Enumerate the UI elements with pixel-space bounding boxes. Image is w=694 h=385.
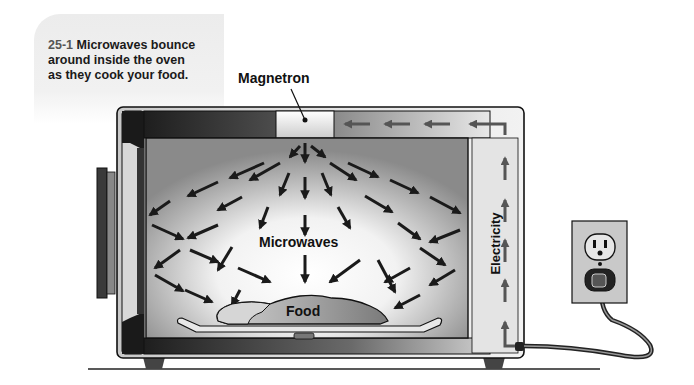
microwaves-label: Microwaves <box>259 234 338 250</box>
cord-grommet <box>515 342 524 351</box>
turntable-hub <box>294 333 314 339</box>
wall-outlet <box>572 221 627 303</box>
microwave-oven-diagram <box>0 0 694 385</box>
oven-bottom-bar <box>144 338 490 354</box>
food-label: Food <box>286 303 320 319</box>
door-handle <box>97 168 107 298</box>
electricity-label: Electricity <box>488 204 503 284</box>
magnetron-label: Magnetron <box>238 70 310 86</box>
magnetron <box>276 111 334 138</box>
